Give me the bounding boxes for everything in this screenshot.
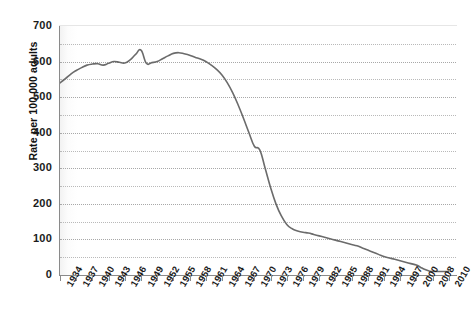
x-tick-1970 [254, 275, 255, 281]
x-tick-1964 [222, 275, 223, 281]
y-tick-label-100: 100 [8, 232, 52, 244]
data-line-series [60, 26, 456, 275]
plot-area [60, 26, 456, 275]
y-tick-label-600: 600 [8, 55, 52, 67]
x-tick-1988 [352, 275, 353, 281]
x-tick-1946 [125, 275, 126, 281]
x-tick-1985 [335, 275, 336, 281]
x-tick-1982 [319, 275, 320, 281]
x-tick-1973 [271, 275, 272, 281]
x-tick-1943 [109, 275, 110, 281]
x-tick-2008 [433, 275, 434, 281]
x-tick-1952 [157, 275, 158, 281]
y-tick-label-700: 700 [8, 19, 52, 31]
x-tick-1958 [190, 275, 191, 281]
x-tick-1967 [238, 275, 239, 281]
x-tick-1955 [173, 275, 174, 281]
y-tick-label-500: 500 [8, 90, 52, 102]
x-tick-1937 [76, 275, 77, 281]
y-tick-label-200: 200 [8, 197, 52, 209]
x-tick-1979 [303, 275, 304, 281]
x-tick-1940 [92, 275, 93, 281]
x-tick-1997 [400, 275, 401, 281]
y-tick-label-400: 400 [8, 126, 52, 138]
x-tick-1976 [287, 275, 288, 281]
y-tick-label-300: 300 [8, 161, 52, 173]
x-tick-1934 [60, 275, 61, 281]
data-line-path [60, 50, 449, 272]
x-tick-2000 [416, 275, 417, 281]
chart-figure: Rate per 100,000 adults 7006005004003002… [0, 0, 472, 323]
x-tick-1991 [368, 275, 369, 281]
x-tick-1994 [384, 275, 385, 281]
y-tick-label-0: 0 [8, 268, 52, 280]
x-tick-2010 [449, 275, 450, 281]
x-tick-1949 [141, 275, 142, 281]
x-tick-1961 [206, 275, 207, 281]
